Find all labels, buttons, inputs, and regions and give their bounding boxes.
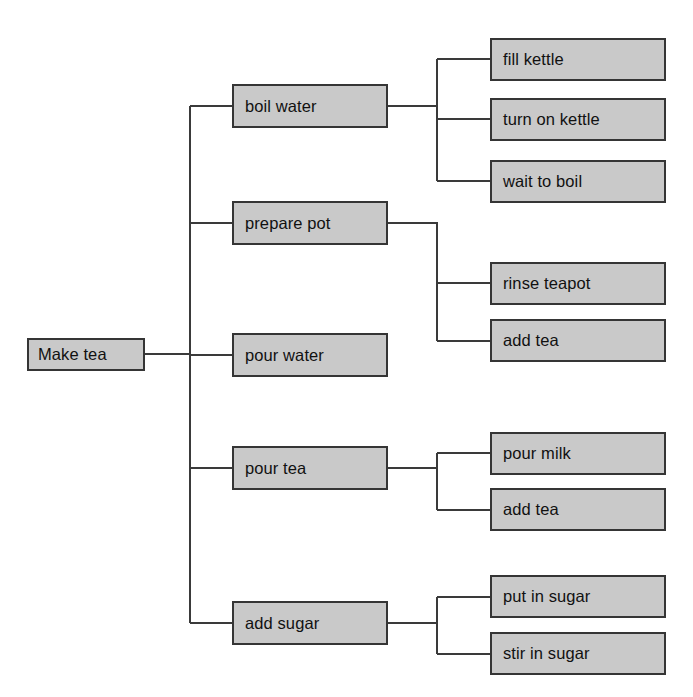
node-label: add sugar [234, 614, 319, 633]
node-add-sugar[interactable]: add sugar [232, 601, 388, 645]
node-label: prepare pot [234, 214, 331, 233]
node-label: pour tea [234, 459, 306, 478]
node-stir-in-sugar[interactable]: stir in sugar [490, 632, 666, 675]
node-make-tea[interactable]: Make tea [27, 338, 145, 371]
node-label: turn on kettle [492, 110, 600, 129]
diagram-canvas: Make tea boil water prepare pot pour wat… [0, 0, 693, 697]
node-pour-milk[interactable]: pour milk [490, 432, 666, 475]
node-pour-tea[interactable]: pour tea [232, 446, 388, 490]
node-boil-water[interactable]: boil water [232, 84, 388, 128]
node-add-tea-to-cup[interactable]: add tea [490, 488, 666, 531]
node-label: add tea [492, 500, 559, 519]
node-rinse-teapot[interactable]: rinse teapot [490, 262, 666, 305]
node-label: Make tea [29, 345, 107, 364]
node-label: fill kettle [492, 50, 564, 69]
node-label: pour water [234, 346, 324, 365]
node-fill-kettle[interactable]: fill kettle [490, 38, 666, 81]
node-turn-on-kettle[interactable]: turn on kettle [490, 98, 666, 141]
node-pour-water[interactable]: pour water [232, 333, 388, 377]
node-label: put in sugar [492, 587, 590, 606]
node-prepare-pot[interactable]: prepare pot [232, 201, 388, 245]
node-wait-to-boil[interactable]: wait to boil [490, 160, 666, 203]
node-label: rinse teapot [492, 274, 590, 293]
node-add-tea-to-pot[interactable]: add tea [490, 319, 666, 362]
node-label: wait to boil [492, 172, 582, 191]
node-put-in-sugar[interactable]: put in sugar [490, 575, 666, 618]
connector-prepare-pot-elbow [388, 223, 437, 341]
node-label: boil water [234, 97, 317, 116]
node-label: pour milk [492, 444, 571, 463]
node-label: add tea [492, 331, 559, 350]
node-label: stir in sugar [492, 644, 590, 663]
